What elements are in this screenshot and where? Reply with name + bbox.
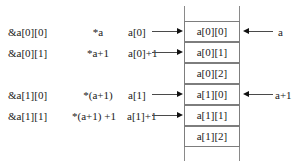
address-expression-row-3: &a[1][0] xyxy=(8,90,47,101)
row-expression-row-1: a[0]+1 xyxy=(128,48,176,59)
address-expression-row-1: &a[0][1] xyxy=(8,48,47,59)
arrow-line-to-row-1 xyxy=(152,52,178,53)
row-expression-row-4: a[1]+1 xyxy=(127,111,175,122)
arrow-line-to-row-0 xyxy=(152,31,178,32)
arrow-line-to-row-3 xyxy=(152,94,178,95)
deref-expression-row-1: *a+1 xyxy=(70,48,126,59)
arrow-head-to-row-0 xyxy=(177,28,183,34)
address-expression-row-0: &a[0][0] xyxy=(8,27,47,38)
deref-expression-row-4: *(a+1) +1 xyxy=(62,111,126,122)
arrow-line-to-row-4 xyxy=(152,115,178,116)
memory-cell-stack: a[0][0] a[0][1] a[0][2] a[1][0] a[1][1] … xyxy=(184,21,240,148)
memory-cell: a[0][2] xyxy=(184,63,240,84)
row-expression-row-3: a[1] xyxy=(128,90,176,101)
memory-layout-diagram: &a[0][0] *a a[0] &a[0][1] *a+1 a[0]+1 &a… xyxy=(0,0,296,166)
pointer-arrow-line-a xyxy=(249,31,273,32)
pointer-label-a: a xyxy=(278,27,283,38)
memory-cell: a[1][1] xyxy=(184,105,240,126)
arrow-head-to-row-3 xyxy=(177,91,183,97)
address-expression-row-4: &a[1][1] xyxy=(8,111,47,122)
memory-cell: a[1][0] xyxy=(184,84,240,105)
pointer-arrow-line-a-plus-1 xyxy=(249,94,273,95)
arrow-head-to-row-4 xyxy=(177,112,183,118)
pointer-label-a-plus-1: a+1 xyxy=(275,90,292,101)
memory-cell: a[0][0] xyxy=(184,21,240,42)
memory-cell: a[0][1] xyxy=(184,42,240,63)
row-expression-row-0: a[0] xyxy=(128,27,176,38)
arrow-head-to-row-1 xyxy=(177,49,183,55)
memory-cell: a[1][2] xyxy=(184,126,240,147)
deref-expression-row-0: *a xyxy=(70,27,126,38)
deref-expression-row-3: *(a+1) xyxy=(70,90,126,101)
